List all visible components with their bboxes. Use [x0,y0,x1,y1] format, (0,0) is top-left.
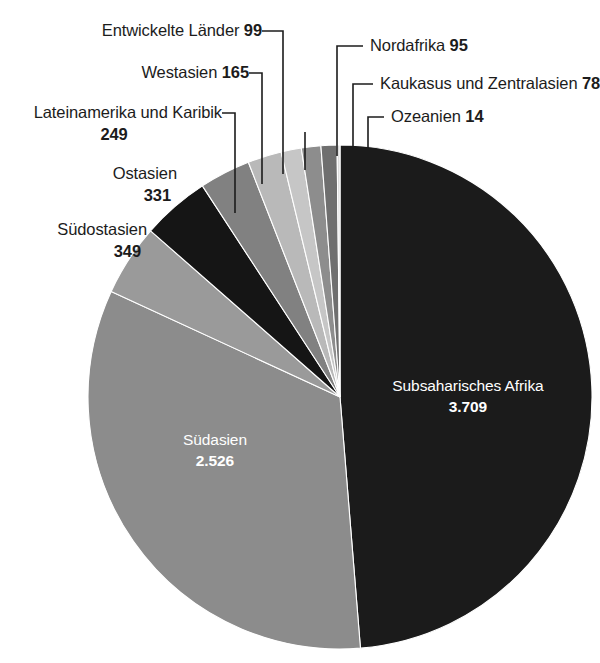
callout-label-suedostasien: Südostasien [57,220,147,238]
slice-label-name-suedasien: Südasien [140,430,290,451]
leader-line-nordafrika [337,46,363,156]
callout-nordafrika: Nordafrika 95 [370,35,468,56]
callout-value-nordafrika: 95 [450,36,468,54]
callout-label-westasien: Westasien [141,63,217,81]
callout-value-ostasien: 331 [144,186,171,204]
callout-label-kaukasus: Kaukasus und Zentralasien [380,74,577,92]
callout-value-suedostasien-wrap: 349 [6,241,141,262]
callout-entwickelte-laender: Entwickelte Länder 99 [12,20,262,41]
slice-label-value-subsaharisches-afrika: 3.709 [368,397,568,418]
callout-value-entwickelte-laender: 99 [244,21,262,39]
callout-value-ozeanien: 14 [465,107,483,125]
callout-ostasien: Ostasien [6,163,177,184]
callout-label-entwickelte-laender: Entwickelte Länder [102,21,240,39]
callout-label-nordafrika: Nordafrika [370,36,445,54]
callout-suedostasien: Südostasien [6,219,147,240]
callout-label-lateinamerika: Lateinamerika und Karibik [34,103,222,121]
slice-label-name-subsaharisches-afrika: Subsaharisches Afrika [368,376,568,397]
slice-label-subsaharisches-afrika: Subsaharisches Afrika 3.709 [368,376,568,418]
slice-label-suedasien: Südasien 2.526 [140,430,290,472]
callout-kaukasus: Kaukasus und Zentralasien 78 [380,73,600,94]
callout-value-kaukasus: 78 [582,74,600,92]
callout-label-ozeanien: Ozeanien [391,107,461,125]
callout-ozeanien: Ozeanien 14 [391,106,483,127]
callout-value-lateinamerika-wrap: 249 [6,124,222,145]
callout-westasien: Westasien 165 [12,62,249,83]
callout-value-ostasien-wrap: 331 [6,185,171,206]
callout-lateinamerika: Lateinamerika und Karibik [6,102,222,123]
callout-value-westasien: 165 [222,63,249,81]
callout-label-ostasien: Ostasien [113,164,177,182]
slice-label-value-suedasien: 2.526 [140,451,290,472]
callout-value-suedostasien: 349 [114,242,141,260]
callout-value-lateinamerika: 249 [100,125,127,143]
